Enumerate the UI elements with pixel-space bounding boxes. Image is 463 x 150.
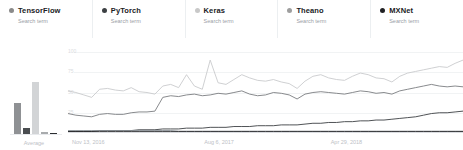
legend-head: PyTorch	[102, 7, 185, 15]
legend-term-name: PyTorch	[111, 7, 141, 15]
legend-color-dot-icon	[102, 8, 107, 13]
legend-term-sublabel: Search term	[204, 18, 278, 24]
legend-term-sublabel: Search term	[296, 18, 370, 24]
legend-card-pytorch[interactable]: PyTorch Search term	[93, 0, 186, 38]
legend-term-sublabel: Search term	[389, 18, 463, 24]
average-bar-panel: Average	[0, 45, 68, 150]
x-axis-tick-label: Nov 13, 2016	[72, 139, 105, 145]
legend-head: Theano	[287, 7, 370, 15]
x-axis-tick-label: Apr 29, 2018	[331, 139, 363, 145]
legend-term-name: MXNet	[389, 7, 413, 15]
legend-card-mxnet[interactable]: MXNet Search term	[371, 0, 463, 38]
legend-head: MXNet	[380, 7, 463, 15]
legend-color-dot-icon	[195, 8, 200, 13]
timeseries-panel[interactable]: 100755025 Nov 13, 2016Aug 6, 2017Apr 29,…	[68, 45, 463, 150]
legend-row: TensorFlow Search term PyTorch Search te…	[0, 0, 463, 38]
legend-head: TensorFlow	[9, 7, 92, 15]
series-line-pytorch	[68, 111, 463, 131]
google-trends-comparison-widget: TensorFlow Search term PyTorch Search te…	[0, 0, 463, 150]
x-axis-tick-label: Aug 6, 2017	[204, 139, 234, 145]
average-bar	[14, 103, 21, 134]
x-axis-line	[68, 132, 463, 133]
legend-term-sublabel: Search term	[18, 18, 92, 24]
series-line-tensorflow	[68, 60, 463, 97]
legend-term-name: Theano	[296, 7, 323, 15]
legend-color-dot-icon	[380, 8, 385, 13]
legend-term-name: Keras	[204, 7, 225, 15]
legend-head: Keras	[195, 7, 278, 15]
timeseries-lines	[68, 45, 463, 150]
average-bars-group	[14, 66, 58, 134]
average-bar	[32, 82, 39, 134]
legend-card-keras[interactable]: Keras Search term	[186, 0, 279, 38]
legend-card-theano[interactable]: Theano Search term	[278, 0, 371, 38]
legend-term-sublabel: Search term	[111, 18, 185, 24]
legend-card-tensorflow[interactable]: TensorFlow Search term	[0, 0, 93, 38]
legend-color-dot-icon	[287, 8, 292, 13]
chart-area: Average 100755025 Nov 13, 2016Aug 6, 201…	[0, 45, 463, 150]
legend-color-dot-icon	[9, 8, 14, 13]
average-panel-label: Average	[0, 140, 68, 146]
legend-term-name: TensorFlow	[18, 7, 61, 15]
average-axis-line	[10, 134, 62, 135]
